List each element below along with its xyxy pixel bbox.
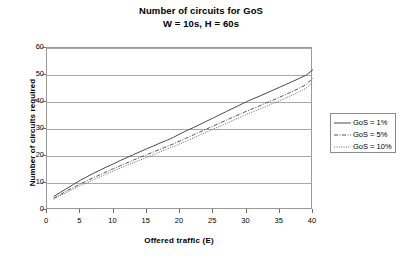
legend-label-gos-1: GoS = 1%	[353, 118, 387, 127]
x-tick-label: 20	[164, 216, 194, 225]
legend-item-gos-5: GoS = 5%	[334, 129, 393, 140]
legend-item-gos-1: GoS = 1%	[334, 117, 393, 128]
x-tick-label: 10	[98, 216, 128, 225]
chart-subtitle: W = 10s, H = 60s	[0, 17, 402, 30]
series-lines	[47, 48, 313, 210]
x-axis-title: Offered traffic (E)	[46, 236, 312, 245]
x-tick-label: 25	[197, 216, 227, 225]
legend-item-gos-10: GoS = 10%	[334, 141, 393, 152]
chart-legend: GoS = 1% GoS = 5% GoS = 10%	[330, 113, 396, 153]
x-tick-label: 0	[31, 216, 61, 225]
legend-label-gos-10: GoS = 10%	[353, 142, 392, 151]
y-tick-label: 60	[18, 42, 44, 51]
x-tick-label: 5	[64, 216, 94, 225]
y-axis-title: Number of circuits required	[28, 53, 37, 213]
legend-label-gos-5: GoS = 5%	[353, 130, 387, 139]
x-tick-label: 40	[297, 216, 327, 225]
chart-title: Number of circuits for GoS	[0, 4, 402, 17]
chart-figure: Number of circuits for GoS W = 10s, H = …	[0, 0, 402, 264]
x-tick-label: 30	[231, 216, 261, 225]
legend-line-dashdot-icon	[334, 131, 351, 139]
series-line-1	[54, 70, 313, 197]
x-tick-label: 35	[264, 216, 294, 225]
chart-title-block: Number of circuits for GoS W = 10s, H = …	[0, 4, 402, 30]
x-tick-label: 15	[131, 216, 161, 225]
plot-area	[46, 47, 312, 209]
legend-line-dotted-icon	[334, 143, 351, 151]
legend-line-solid-icon	[334, 119, 351, 127]
